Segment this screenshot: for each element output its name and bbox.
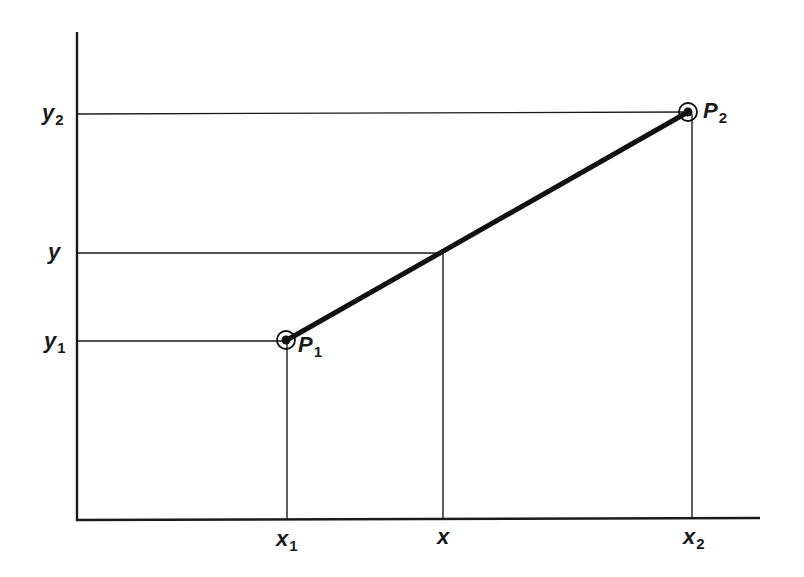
label-y1: y1 [44, 330, 66, 355]
guide-line-y2 [77, 112, 686, 114]
label-x1-base: x [276, 526, 288, 551]
label-p1-base: P [298, 332, 313, 357]
label-y2-base: y [42, 100, 54, 125]
label-x2-base: x [683, 524, 695, 549]
point-p1-marker [277, 331, 295, 349]
label-x2-subscript: 2 [696, 535, 704, 552]
label-x: x [437, 526, 449, 548]
label-x-base: x [437, 524, 449, 549]
segment-p1-p2 [287, 112, 688, 340]
label-y1-base: y [44, 328, 56, 353]
label-y: y [48, 241, 60, 263]
x-axis [76, 518, 760, 520]
label-x2: x2 [683, 526, 705, 551]
label-x1: x1 [276, 528, 298, 553]
label-p2: P2 [703, 100, 727, 125]
label-x1-subscript: 1 [289, 537, 297, 554]
label-p1: P1 [298, 334, 322, 359]
label-y-base: y [48, 239, 60, 264]
label-y1-subscript: 1 [57, 339, 65, 356]
label-p1-subscript: 1 [314, 343, 322, 360]
label-y2-subscript: 2 [55, 111, 63, 128]
label-p2-base: P [703, 98, 718, 123]
interpolation-diagram [0, 0, 804, 577]
label-y2: y2 [42, 102, 64, 127]
label-p2-subscript: 2 [719, 109, 727, 126]
